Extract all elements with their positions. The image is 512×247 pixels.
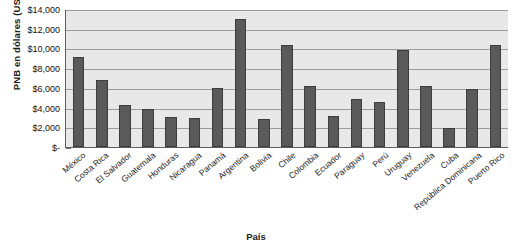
y-axis-tick-label: $4,000 xyxy=(32,104,60,114)
bar xyxy=(73,57,85,147)
bar-slot xyxy=(90,10,113,147)
bar-slot xyxy=(136,10,159,147)
bar xyxy=(119,105,131,147)
bar-series xyxy=(66,10,508,147)
bar xyxy=(328,116,340,147)
y-axis-tick-label: $2,000 xyxy=(32,123,60,133)
bar-slot xyxy=(391,10,414,147)
bar xyxy=(374,102,386,147)
bar xyxy=(397,50,409,147)
bar xyxy=(258,119,270,147)
x-axis-tick-labels: MéxicoCosta RicaEl SalvadorGuatemalaHond… xyxy=(65,150,508,230)
bar-slot xyxy=(414,10,437,147)
bar xyxy=(96,80,108,147)
y-axis-tick-label: $14,000 xyxy=(27,5,60,15)
bar xyxy=(142,109,154,147)
bar-slot xyxy=(229,10,252,147)
bar-slot xyxy=(160,10,183,147)
bar-slot xyxy=(438,10,461,147)
bar xyxy=(443,128,455,147)
y-axis-tick-mark xyxy=(66,148,71,149)
bar xyxy=(420,86,432,147)
y-axis-tick-labels: $14,000$12,000$10,000$8,000$6,000$4,000$… xyxy=(8,0,60,160)
bar xyxy=(281,45,293,147)
bar xyxy=(189,118,201,147)
bar-slot xyxy=(461,10,484,147)
bar-slot xyxy=(67,10,90,147)
bar-slot xyxy=(345,10,368,147)
bar-chart: PNB en dólares (USD) $14,000$12,000$10,0… xyxy=(0,0,512,247)
bar xyxy=(351,99,363,147)
bar-slot xyxy=(183,10,206,147)
bar-slot xyxy=(484,10,507,147)
bar xyxy=(490,45,502,147)
bar-slot xyxy=(322,10,345,147)
bar xyxy=(235,19,247,147)
bar xyxy=(212,88,224,147)
bar xyxy=(304,86,316,147)
bar-slot xyxy=(299,10,322,147)
x-axis-title: País xyxy=(0,231,512,247)
bar-slot xyxy=(206,10,229,147)
y-axis-tick-label: $8,000 xyxy=(32,64,60,74)
y-axis-tick-label: $- xyxy=(52,143,60,153)
y-axis-tick-label: $6,000 xyxy=(32,84,60,94)
y-axis-tick-label: $12,000 xyxy=(27,25,60,35)
x-axis-tick-label: Bolivia xyxy=(248,150,274,174)
bar xyxy=(165,117,177,147)
bar-slot xyxy=(368,10,391,147)
y-axis-tick-label: $10,000 xyxy=(27,44,60,54)
bar-slot xyxy=(275,10,298,147)
plot-area xyxy=(65,10,508,148)
bar-slot xyxy=(113,10,136,147)
bar-slot xyxy=(252,10,275,147)
bar xyxy=(466,89,478,147)
